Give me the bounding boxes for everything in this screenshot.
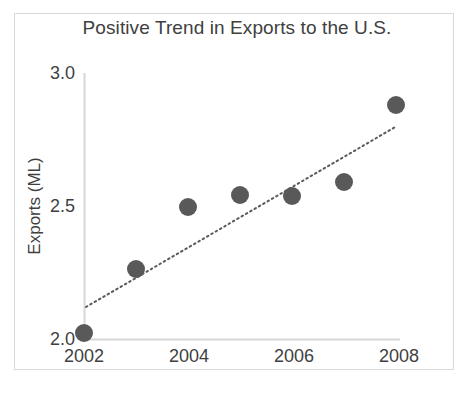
data-point-2006[interactable] — [283, 187, 301, 205]
y-axis-title: Exports (ML) — [25, 157, 44, 254]
data-point-2003[interactable] — [127, 260, 145, 278]
trendline — [86, 126, 397, 307]
data-point-2002[interactable] — [75, 324, 93, 342]
x-tick-label-2002: 2002 — [64, 346, 104, 366]
y-tick-label-2-5: 2.5 — [50, 196, 75, 216]
data-point-2005[interactable] — [231, 186, 249, 204]
data-point-2007[interactable] — [335, 173, 353, 191]
x-tick-label-2008: 2008 — [379, 346, 419, 366]
x-tick-label-2006: 2006 — [274, 346, 314, 366]
data-point-2004[interactable] — [179, 198, 197, 216]
screenshot-root: Positive Trend in Exports to the U.S. 3.… — [0, 0, 474, 401]
data-point-2008[interactable] — [387, 96, 405, 114]
y-tick-label-3-0: 3.0 — [50, 63, 75, 83]
scatter-plot: 3.0 2.5 2.0 2002 2004 2006 2008 Exports … — [0, 0, 474, 401]
x-tick-label-2004: 2004 — [169, 346, 209, 366]
